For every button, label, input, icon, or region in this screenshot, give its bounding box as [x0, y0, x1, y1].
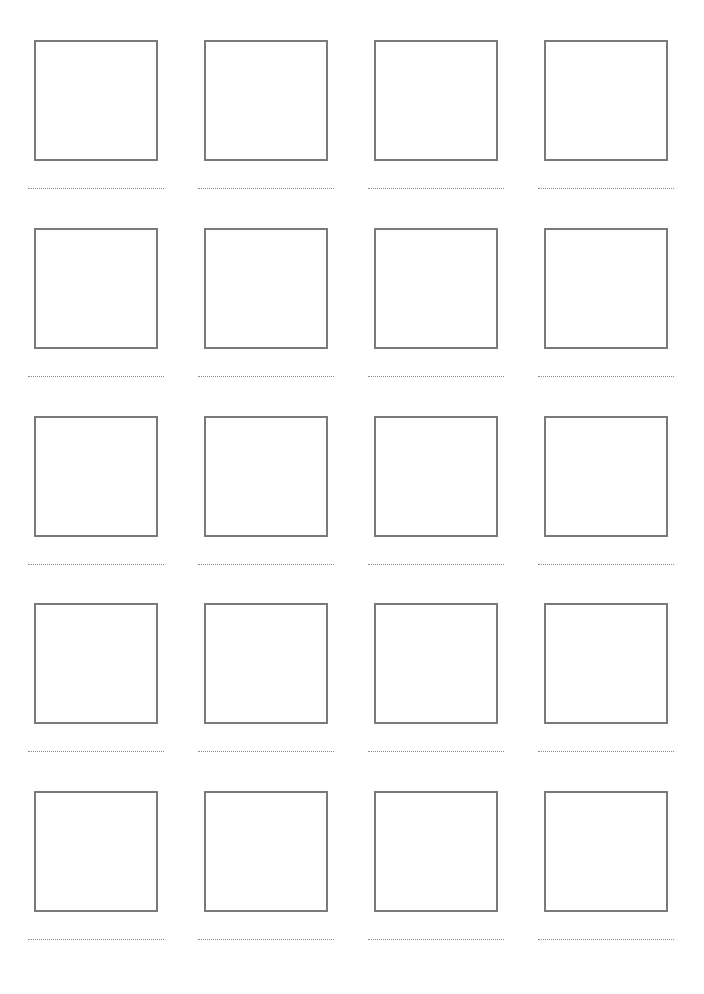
dotted-writing-line[interactable]: [368, 751, 504, 752]
drawing-box[interactable]: [374, 416, 498, 537]
drawing-box[interactable]: [34, 228, 158, 349]
dotted-writing-line[interactable]: [198, 376, 334, 377]
grid-cell: [198, 40, 338, 200]
dotted-writing-line[interactable]: [28, 751, 164, 752]
dotted-writing-line[interactable]: [368, 376, 504, 377]
grid-cell: [368, 603, 508, 763]
dotted-writing-line[interactable]: [198, 564, 334, 565]
grid-cell: [538, 603, 678, 763]
dotted-writing-line[interactable]: [28, 939, 164, 940]
drawing-box[interactable]: [204, 603, 328, 724]
drawing-box[interactable]: [374, 791, 498, 912]
grid-cell: [28, 791, 168, 951]
drawing-box[interactable]: [544, 791, 668, 912]
drawing-box[interactable]: [204, 416, 328, 537]
drawing-box[interactable]: [544, 603, 668, 724]
drawing-box[interactable]: [374, 603, 498, 724]
drawing-box[interactable]: [204, 228, 328, 349]
drawing-box[interactable]: [34, 791, 158, 912]
grid-cell: [198, 228, 338, 388]
grid-cell: [198, 791, 338, 951]
dotted-writing-line[interactable]: [368, 939, 504, 940]
dotted-writing-line[interactable]: [28, 564, 164, 565]
grid-cell: [368, 416, 508, 576]
drawing-box[interactable]: [544, 416, 668, 537]
dotted-writing-line[interactable]: [368, 564, 504, 565]
dotted-writing-line[interactable]: [538, 939, 674, 940]
grid-cell: [198, 416, 338, 576]
drawing-box[interactable]: [34, 416, 158, 537]
grid-cell: [538, 40, 678, 200]
drawing-box[interactable]: [544, 228, 668, 349]
grid-cell: [28, 40, 168, 200]
drawing-box[interactable]: [374, 40, 498, 161]
drawing-box[interactable]: [204, 40, 328, 161]
grid-cell: [538, 791, 678, 951]
drawing-box[interactable]: [374, 228, 498, 349]
drawing-box[interactable]: [34, 603, 158, 724]
grid-cell: [28, 416, 168, 576]
grid-cell: [28, 228, 168, 388]
grid-cell: [538, 416, 678, 576]
dotted-writing-line[interactable]: [198, 188, 334, 189]
grid-cell: [28, 603, 168, 763]
dotted-writing-line[interactable]: [198, 939, 334, 940]
dotted-writing-line[interactable]: [28, 188, 164, 189]
drawing-box[interactable]: [34, 40, 158, 161]
drawing-box[interactable]: [204, 791, 328, 912]
drawing-box[interactable]: [544, 40, 668, 161]
grid-cell: [368, 40, 508, 200]
grid-cell: [368, 228, 508, 388]
dotted-writing-line[interactable]: [368, 188, 504, 189]
dotted-writing-line[interactable]: [538, 751, 674, 752]
dotted-writing-line[interactable]: [538, 564, 674, 565]
dotted-writing-line[interactable]: [538, 376, 674, 377]
grid-cell: [198, 603, 338, 763]
dotted-writing-line[interactable]: [198, 751, 334, 752]
dotted-writing-line[interactable]: [28, 376, 164, 377]
grid-cell: [538, 228, 678, 388]
grid-cell: [368, 791, 508, 951]
dotted-writing-line[interactable]: [538, 188, 674, 189]
